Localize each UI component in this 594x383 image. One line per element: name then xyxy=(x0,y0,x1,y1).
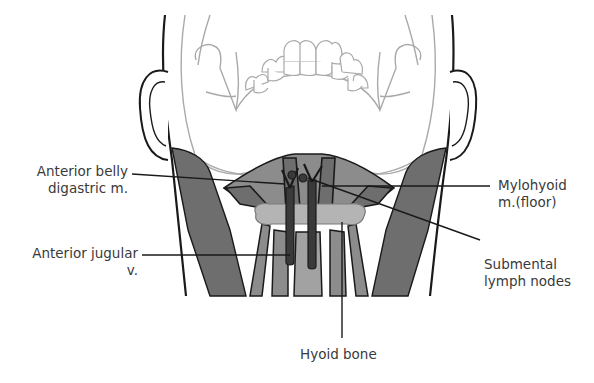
ear-right xyxy=(450,71,476,160)
label-mylohyoid: Mylohyoid m.(floor) xyxy=(498,177,567,211)
label-submental-lymph-nodes: Submental lymph nodes xyxy=(484,256,571,290)
label-anterior-jugular-vein: Anterior jugular v. xyxy=(14,245,138,279)
label-hyoid-bone: Hyoid bone xyxy=(300,346,377,363)
ear-left xyxy=(140,71,168,160)
label-anterior-belly-digastric: Anterior belly digastric m. xyxy=(22,163,128,197)
skull-lines xyxy=(181,15,435,177)
teeth xyxy=(246,41,368,93)
